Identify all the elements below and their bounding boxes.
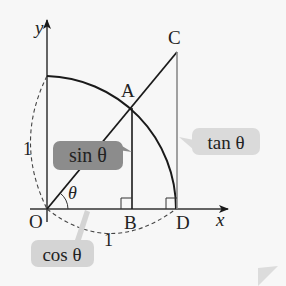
page-curl — [258, 266, 278, 286]
x-axis-label: x — [215, 209, 225, 230]
radius-1-vertical-dashed-arc — [31, 76, 48, 209]
point-A-label: A — [121, 80, 135, 101]
angle-theta-label: θ — [68, 183, 77, 203]
diagram-svg: sin θ tan θ cos θ y x O A B C D 1 1 θ — [0, 0, 286, 286]
right-angle-mark-B — [121, 198, 132, 209]
cos-label: cos θ — [42, 244, 81, 265]
point-B-label: B — [124, 212, 137, 233]
unit-circle-diagram: sin θ tan θ cos θ y x O A B C D 1 1 θ — [0, 0, 286, 286]
sin-label: sin θ — [69, 144, 107, 166]
tan-callout: tan θ — [179, 128, 260, 155]
point-C-label: C — [168, 27, 181, 48]
radius-label-vertical: 1 — [23, 139, 32, 159]
tan-label: tan θ — [207, 132, 244, 153]
angle-theta-arc — [60, 193, 68, 209]
radius-label-horizontal: 1 — [104, 230, 113, 250]
sin-callout: sin θ — [53, 141, 132, 170]
ray-OC — [47, 52, 177, 209]
point-O-label: O — [29, 211, 43, 232]
y-axis-label: y — [33, 17, 44, 38]
point-D-label: D — [176, 212, 190, 233]
